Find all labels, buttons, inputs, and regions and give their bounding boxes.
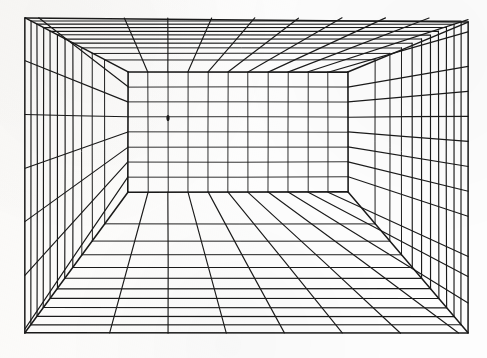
bottom-left-diagonal — [25, 192, 128, 333]
floor-orthogonal-line — [248, 192, 401, 333]
perspective-grid-drawing — [0, 0, 487, 358]
floor-orthogonal-line — [110, 192, 148, 333]
right-wall-orthogonal-line — [348, 66, 468, 87]
right-wall-orthogonal-line — [348, 177, 468, 217]
left-wall-orthogonal-line — [25, 177, 128, 329]
bottom-right-diagonal — [348, 192, 468, 333]
ceiling-orthogonal-line — [208, 18, 255, 72]
left-wall-orthogonal-line — [25, 61, 128, 102]
ceiling-orthogonal-line — [188, 18, 212, 72]
ceiling-orthogonal-line — [288, 18, 429, 72]
right-wall-orthogonal-line — [348, 132, 468, 141]
right-wall-orthogonal-line — [348, 116, 468, 117]
right-wall-orthogonal-line — [348, 91, 468, 102]
ceiling-orthogonal-line — [124, 18, 147, 72]
top-left-diagonal — [25, 18, 128, 72]
left-wall-orthogonal-line — [25, 147, 128, 222]
right-wall-orthogonal-line — [348, 147, 468, 167]
floor-orthogonal-line — [288, 192, 468, 303]
left-wall-orthogonal-line — [25, 132, 128, 168]
top-right-diagonal — [348, 22, 468, 72]
perspective-grid-svg — [0, 0, 487, 358]
back-wall-horizontal-line — [128, 162, 348, 163]
ceiling-depth-ring-line — [43, 27, 446, 28]
floor-orthogonal-line — [328, 192, 468, 256]
floor-orthogonal-line — [188, 192, 226, 333]
left-wall-orthogonal-line — [25, 115, 128, 117]
right-wall-orthogonal-line — [348, 162, 468, 191]
floor-orthogonal-line — [208, 192, 284, 333]
left-wall-orthogonal-line — [25, 162, 128, 275]
floor-orthogonal-line — [308, 192, 468, 276]
vanishing-point-dot — [166, 115, 169, 121]
